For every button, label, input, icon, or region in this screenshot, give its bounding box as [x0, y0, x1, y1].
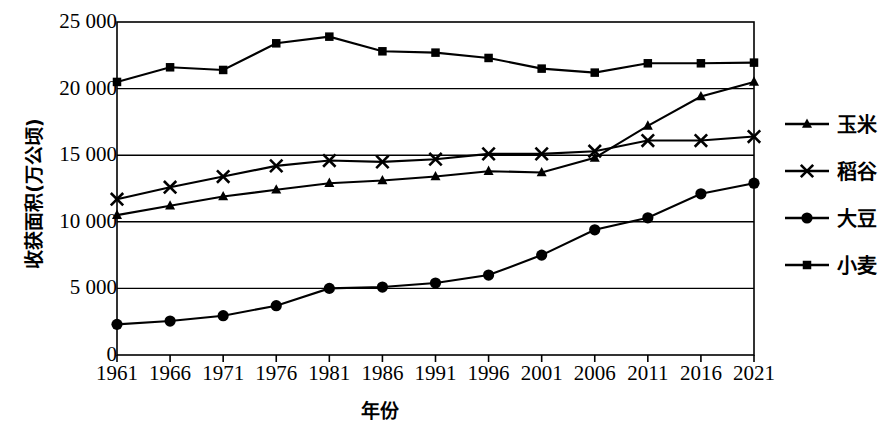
marker-circle [377, 281, 388, 292]
legend-label: 稻谷 [831, 156, 877, 185]
marker-square [219, 66, 228, 75]
x-tick-label: 2021 [714, 361, 794, 385]
legend-marker-icon [783, 253, 831, 277]
legend-marker-icon [783, 159, 831, 183]
marker-square [484, 54, 493, 63]
marker-circle [642, 212, 653, 223]
legend-item-大豆[interactable]: 大豆 [783, 194, 879, 241]
series-0 [112, 76, 759, 219]
series-line [117, 183, 754, 324]
marker-circle [271, 300, 282, 311]
legend-marker-icon [783, 112, 831, 136]
marker-square [378, 47, 387, 56]
chart-legend: 玉米稻谷大豆小麦 [783, 100, 879, 288]
marker-square [591, 68, 600, 77]
marker-square [113, 78, 122, 87]
marker-circle [483, 269, 494, 280]
chart-container: 收获面积(万公顷) 25 00020 00015 00010 0005 0000… [0, 0, 879, 423]
x-axis-tick-labels: 1961196619711976198119861991199620012006… [0, 361, 879, 391]
marker-circle [430, 277, 441, 288]
legend-label: 小麦 [831, 250, 877, 279]
marker-square [325, 32, 334, 41]
marker-circle [748, 178, 759, 189]
legend-item-稻谷[interactable]: 稻谷 [783, 147, 879, 194]
legend-marker [783, 206, 831, 230]
series-line [117, 37, 754, 82]
x-axis-title: 年份 [0, 396, 760, 423]
legend-item-玉米[interactable]: 玉米 [783, 100, 879, 147]
legend-item-小麦[interactable]: 小麦 [783, 241, 879, 288]
legend-marker [783, 159, 831, 183]
plot-area [0, 0, 879, 423]
plot-frame [117, 22, 754, 355]
marker-square [750, 58, 759, 67]
series-2 [111, 178, 759, 330]
legend-marker [783, 253, 831, 277]
marker-circle [218, 310, 229, 321]
marker-square [803, 260, 812, 269]
marker-circle [111, 319, 122, 330]
legend-label: 大豆 [831, 203, 877, 232]
series-3 [113, 32, 759, 86]
legend-marker-icon [783, 206, 831, 230]
series-line [117, 82, 754, 215]
marker-square [166, 63, 175, 71]
marker-circle [589, 224, 600, 235]
marker-square [431, 48, 440, 57]
marker-circle [324, 283, 335, 294]
legend-label: 玉米 [831, 109, 877, 138]
marker-circle [164, 315, 175, 326]
marker-triangle [749, 76, 759, 85]
series-line [117, 137, 754, 200]
marker-square [697, 59, 706, 68]
marker-square [272, 39, 281, 48]
marker-circle [536, 250, 547, 261]
series-1 [111, 130, 760, 205]
legend-marker [783, 112, 831, 136]
marker-circle [801, 212, 812, 223]
marker-square [644, 59, 653, 68]
marker-circle [695, 188, 706, 199]
marker-square [537, 64, 546, 73]
